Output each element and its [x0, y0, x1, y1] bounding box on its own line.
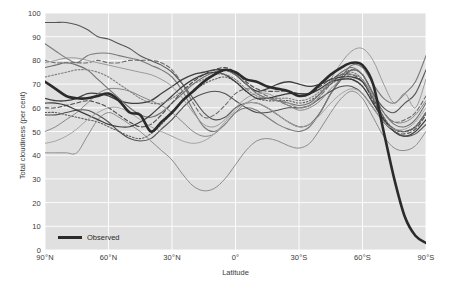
x-axis-tick-labels: 90°N60°N30°N0°30°S60°S90°S: [45, 253, 426, 265]
x-tick-label: 30°S: [290, 253, 307, 262]
y-tick-label: 10: [32, 222, 41, 231]
x-tick-label: 60°N: [100, 253, 118, 262]
y-tick-label: 60: [32, 103, 41, 112]
x-tick-label: 0°: [232, 253, 240, 262]
y-tick-label: 90: [32, 32, 41, 41]
y-tick-label: 70: [32, 80, 41, 89]
y-tick-label: 50: [32, 127, 41, 136]
y-tick-label: 40: [32, 151, 41, 160]
plot-area: [45, 13, 426, 250]
x-tick-label: 90°S: [417, 253, 434, 262]
x-axis-title: Latitude: [45, 268, 426, 277]
x-tick-label: 90°N: [36, 253, 54, 262]
legend-label-observed: Observed: [87, 233, 120, 242]
chart-root: 0102030405060708090100 Total cloudiness …: [0, 0, 450, 298]
y-tick-label: 100: [28, 9, 41, 18]
series-line: [45, 91, 426, 191]
series-line: [45, 44, 426, 132]
y-tick-label: 80: [32, 56, 41, 65]
x-tick-label: 60°S: [354, 253, 371, 262]
y-tick-label: 20: [32, 198, 41, 207]
legend: Observed: [58, 233, 120, 242]
legend-swatch-observed: [58, 236, 82, 239]
y-tick-label: 30: [32, 174, 41, 183]
y-axis-title: Total cloudiness (per cent): [18, 66, 27, 206]
series-lines: [45, 13, 426, 250]
x-tick-label: 30°N: [163, 253, 181, 262]
